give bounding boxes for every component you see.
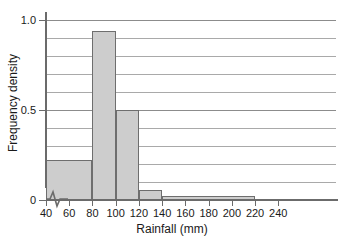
x-tick-mark (255, 201, 256, 206)
x-tick-mark (209, 201, 210, 206)
x-tick-mark (139, 201, 140, 206)
gridline (46, 74, 336, 75)
x-tick-mark (116, 201, 117, 206)
gridline (46, 38, 336, 39)
x-axis-title: Rainfall (mm) (0, 222, 344, 236)
x-tick-mark (46, 201, 47, 206)
histogram-bar (116, 110, 139, 200)
x-tick-mark (69, 201, 70, 206)
y-tick-mark (39, 200, 46, 201)
gridline (46, 92, 336, 93)
gridline (46, 146, 336, 147)
gridline (46, 56, 336, 57)
gridline (46, 20, 336, 21)
x-axis-line (46, 199, 338, 201)
plot-area (46, 14, 336, 200)
y-tick-label: 0 (2, 195, 36, 206)
x-tick-mark (162, 201, 163, 206)
y-tick-mark (39, 110, 46, 111)
x-tick-label: 240 (263, 207, 293, 219)
x-tick-mark (232, 201, 233, 206)
x-tick-mark (185, 201, 186, 206)
gridline (46, 110, 336, 111)
gridline (46, 128, 336, 129)
y-tick-label: 1.0 (2, 15, 36, 26)
x-tick-mark (278, 201, 279, 206)
y-axis-line (45, 12, 47, 188)
y-tick-mark (39, 20, 46, 21)
x-tick-mark (92, 201, 93, 206)
histogram-bar (92, 31, 115, 200)
histogram-chart: 00.51.0 406080100120140160180200220240 R… (0, 0, 344, 240)
y-axis-title: Frequency density (6, 28, 20, 178)
